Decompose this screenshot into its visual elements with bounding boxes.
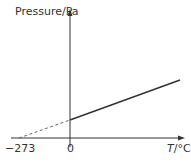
x-tick-abs-zero: −273 bbox=[5, 143, 35, 154]
extrapolation-dashed-line bbox=[19, 120, 70, 138]
chart-canvas bbox=[0, 0, 191, 163]
x-axis-label-var: T bbox=[167, 142, 174, 155]
x-tick-zero: 0 bbox=[67, 143, 74, 154]
y-axis-label: Pressure/Pa bbox=[15, 6, 79, 17]
pressure-line bbox=[70, 80, 180, 120]
x-axis-arrow-icon bbox=[178, 136, 185, 141]
x-axis-label-unit: /°C bbox=[174, 142, 191, 155]
x-axis-label: T/°C bbox=[167, 143, 191, 154]
